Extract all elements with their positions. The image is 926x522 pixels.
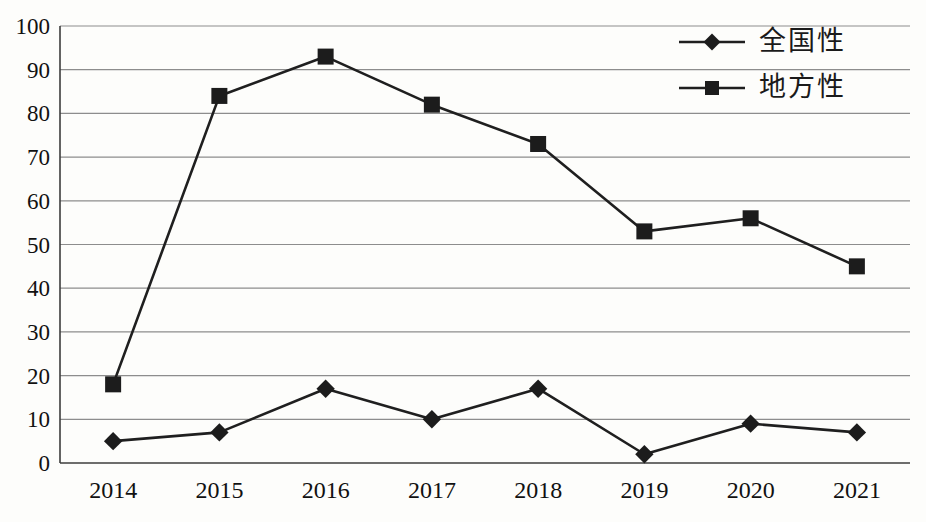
marker-diamond-2014 (104, 432, 122, 450)
marker-diamond-2021 (848, 423, 866, 441)
y-tick-label-90: 90 (27, 58, 50, 83)
legend-item-local: 地方性 (678, 73, 846, 103)
marker-square-2015 (211, 88, 227, 104)
marker-square-2018 (530, 136, 546, 152)
diamond-marker-icon (678, 33, 746, 51)
marker-square-2014 (105, 376, 121, 392)
y-tick-label-10: 10 (27, 407, 50, 432)
x-tick-label-2016: 2016 (302, 477, 350, 503)
marker-square-2016 (318, 49, 334, 65)
y-tick-label-80: 80 (27, 101, 50, 126)
marker-diamond-2015 (210, 423, 228, 441)
marker-square-2020 (743, 210, 759, 226)
legend-label-national: 全国性 (759, 27, 846, 57)
marker-diamond-2017 (423, 410, 441, 428)
marker-square-2021 (849, 258, 865, 274)
y-tick-label-50: 50 (27, 233, 50, 258)
y-tick-label-60: 60 (27, 189, 50, 214)
x-tick-label-2018: 2018 (514, 477, 562, 503)
marker-square-2019 (636, 223, 652, 239)
y-tick-label-100: 100 (16, 14, 51, 39)
x-tick-label-2017: 2017 (408, 477, 456, 503)
x-tick-label-2021: 2021 (833, 477, 881, 503)
legend-label-local: 地方性 (759, 73, 846, 103)
y-tick-label-70: 70 (27, 145, 50, 170)
y-tick-label-40: 40 (27, 276, 50, 301)
line-chart: 0102030405060708090100201420152016201720… (0, 0, 926, 522)
chart-legend: 全国性 地方性 (678, 27, 846, 102)
x-tick-label-2014: 2014 (89, 477, 137, 503)
y-tick-label-20: 20 (27, 364, 50, 389)
x-tick-label-2015: 2015 (195, 477, 243, 503)
square-marker-icon (678, 79, 746, 97)
marker-diamond-2020 (741, 414, 759, 432)
x-tick-label-2019: 2019 (620, 477, 668, 503)
x-tick-label-2020: 2020 (727, 477, 775, 503)
marker-square-2017 (424, 97, 440, 113)
y-tick-label-0: 0 (39, 451, 51, 476)
marker-diamond-2018 (529, 380, 547, 398)
legend-item-national: 全国性 (678, 27, 846, 57)
y-tick-label-30: 30 (27, 320, 50, 345)
marker-diamond-2019 (635, 445, 653, 463)
marker-diamond-2016 (316, 380, 334, 398)
